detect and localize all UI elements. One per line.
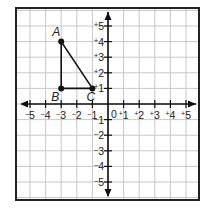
y-tick-label: +2 [94,67,104,79]
point-label-a: A [51,25,60,39]
y-tick-label: +4 [94,36,104,48]
y-tick-label: –1 [94,114,104,126]
point-a [58,39,64,45]
y-axis-down-arrow-icon [105,189,112,197]
y-tick-label: –3 [94,145,104,157]
y-tick-label: –5 [94,176,104,188]
y-tick-label: –4 [94,160,104,172]
triangle-abc: ABC [51,25,95,105]
coordinate-plane: –5–4–3–2–1+1+2+3+4+5+5+4+3+2+1–1–2–3–4–5… [0,0,208,212]
origin-label: 0 [111,108,117,120]
x-axis-right-arrow-icon [188,101,196,108]
point-label-c: C [86,90,95,104]
y-tick-label: –2 [94,129,104,141]
axes [20,12,196,197]
y-tick-label: +3 [94,51,104,63]
x-axis-left-arrow-icon [20,101,28,108]
y-tick-label: +1 [94,82,104,94]
point-label-b: B [51,90,59,104]
y-tick-label: +5 [94,20,104,32]
y-axis-up-arrow-icon [105,12,112,20]
